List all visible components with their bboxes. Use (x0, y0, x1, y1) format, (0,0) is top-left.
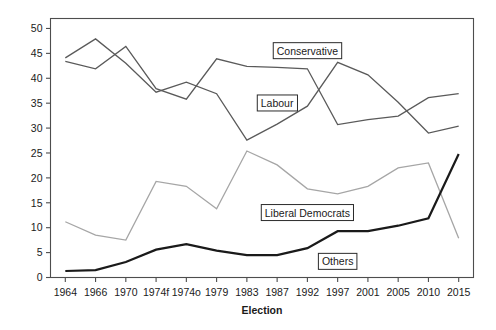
y-tick-label: 35 (31, 97, 43, 109)
y-tick-label: 5 (37, 246, 43, 258)
series-line-labour (65, 39, 458, 140)
x-axis-title: Election (242, 304, 283, 316)
y-tick-label: 45 (31, 47, 43, 59)
series-line-liberal-democrats (65, 151, 458, 240)
y-tick-label: 20 (31, 172, 43, 184)
x-tick-label: 1987 (265, 286, 289, 298)
x-tick-label: 1979 (205, 286, 229, 298)
series-lines (65, 39, 458, 271)
x-tick-label: 1983 (235, 286, 259, 298)
x-tick-label: 2010 (417, 286, 441, 298)
series-label-text-liberal-democrats: Liberal Democrats (265, 207, 350, 219)
vote-share-line-chart: 05101520253035404550 1964196619701974f19… (0, 0, 496, 330)
y-tick-label: 25 (31, 147, 43, 159)
y-tick-label: 50 (31, 22, 43, 34)
series-label-liberal-democrats: Liberal Democrats (261, 205, 353, 221)
y-tick-label: 0 (37, 271, 43, 283)
chart-canvas: 05101520253035404550 1964196619701974f19… (0, 0, 496, 330)
x-tick-label: 1970 (114, 286, 138, 298)
y-axis-ticks: 05101520253035404550 (31, 22, 51, 283)
x-tick-label: 1966 (84, 286, 108, 298)
x-tick-label: 2005 (386, 286, 410, 298)
series-label-text-conservative: Conservative (277, 45, 338, 57)
x-tick-label: 1974f (143, 286, 169, 298)
y-tick-label: 15 (31, 197, 43, 209)
series-label-others: Others (318, 253, 357, 269)
series-label-text-others: Others (322, 255, 354, 267)
series-line-conservative (65, 46, 458, 124)
y-tick-label: 10 (31, 221, 43, 233)
x-tick-label: 1997 (326, 286, 350, 298)
series-label-text-labour: Labour (261, 97, 294, 109)
series-label-conservative: Conservative (273, 43, 341, 59)
series-label-labour: Labour (257, 95, 297, 111)
y-tick-label: 40 (31, 72, 43, 84)
x-tick-label: 1992 (296, 286, 320, 298)
series-inline-labels: ConservativeLabourLiberal DemocratsOther… (257, 43, 357, 270)
x-axis-ticks: 1964196619701974f1974o197919831987199219… (54, 278, 471, 298)
y-tick-label: 30 (31, 122, 43, 134)
x-tick-label: 2001 (356, 286, 380, 298)
x-tick-label: 1974o (172, 286, 201, 298)
x-tick-label: 1964 (54, 286, 78, 298)
x-tick-label: 2015 (447, 286, 471, 298)
